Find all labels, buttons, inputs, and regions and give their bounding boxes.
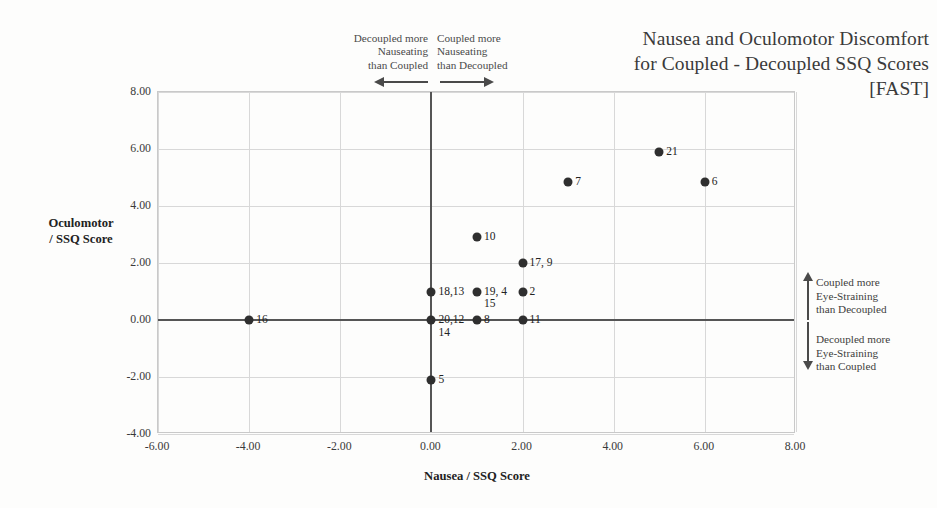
gridline-horizontal xyxy=(158,149,794,150)
data-point-label-line: 2 xyxy=(530,285,536,298)
gridline-horizontal xyxy=(158,206,794,207)
data-point-label: 2 xyxy=(530,285,536,298)
y-axis-title-line-2: / SSQ Score xyxy=(16,231,146,247)
data-point-label-line: 8 xyxy=(484,313,490,326)
data-point xyxy=(427,287,436,296)
data-point xyxy=(655,147,664,156)
annotation-right-bottom-line-3: than Coupled xyxy=(816,360,890,374)
x-axis-tick-label: -2.00 xyxy=(314,439,364,454)
chart-title-line-1: Nausea and Oculomotor Discomfort xyxy=(509,26,929,51)
data-point-label: 11 xyxy=(530,313,541,326)
gridline-horizontal xyxy=(158,434,794,435)
data-point xyxy=(473,316,482,325)
x-axis-tick-label: 6.00 xyxy=(679,439,729,454)
data-point xyxy=(518,259,527,268)
data-point-label-line: 7 xyxy=(575,175,581,188)
x-axis-tick-label: 4.00 xyxy=(588,439,638,454)
gridline-horizontal xyxy=(158,92,794,93)
data-point-label: 7 xyxy=(575,175,581,188)
data-point-label: 6 xyxy=(712,175,718,188)
annotation-right-bottom: Decoupled more Eye-Straining than Couple… xyxy=(816,333,890,374)
data-point-label-line: 5 xyxy=(438,373,444,386)
data-point-label-line: 18,13 xyxy=(438,285,464,298)
y-axis-tick-label: 2.00 xyxy=(105,255,151,270)
data-point-label: 8 xyxy=(484,313,490,326)
scatter-chart: Nausea and Oculomotor Discomfort for Cou… xyxy=(0,0,937,508)
annotation-top-right-line-3: than Decoupled xyxy=(437,59,547,72)
plot-area: 16520,121418,13819, 4151011217, 97216 xyxy=(157,91,795,433)
y-axis-tick-label: 6.00 xyxy=(105,141,151,156)
arrow-right-icon xyxy=(440,76,494,88)
annotation-top-right-line-1: Coupled more xyxy=(437,32,547,45)
x-axis-tick-label: 0.00 xyxy=(405,439,455,454)
data-point xyxy=(245,316,254,325)
x-axis-tick-label: 2.00 xyxy=(497,439,547,454)
data-point-label-line: 11 xyxy=(530,313,541,326)
data-point xyxy=(518,287,527,296)
gridline-vertical xyxy=(705,92,706,432)
gridline-horizontal xyxy=(158,377,794,378)
data-point-label-line: 14 xyxy=(438,326,464,339)
y-axis-tick-label: -2.00 xyxy=(105,369,151,384)
data-point-label-line: 6 xyxy=(712,175,718,188)
data-point-label: 19, 415 xyxy=(484,285,507,310)
arrow-down-icon xyxy=(802,322,815,370)
data-point-label: 21 xyxy=(666,145,678,158)
annotation-right-top-line-2: Eye-Straining xyxy=(816,290,887,304)
data-point-label-line: 15 xyxy=(484,297,507,310)
data-point-label: 18,13 xyxy=(438,285,464,298)
data-point-label: 5 xyxy=(438,373,444,386)
data-point-label-line: 19, 4 xyxy=(484,285,507,298)
y-axis-tick-label: 4.00 xyxy=(105,198,151,213)
y-axis-title-line-1: Oculomotor xyxy=(16,215,146,231)
annotation-top-right: Coupled more Nauseating than Decoupled xyxy=(437,32,547,72)
annotation-top-left: Decoupled more Nauseating than Coupled xyxy=(318,32,428,72)
data-point-label: 20,1214 xyxy=(438,313,464,338)
data-point xyxy=(564,177,573,186)
data-point-label: 17, 9 xyxy=(530,256,553,269)
y-axis-tick-label: 8.00 xyxy=(105,84,151,99)
chart-title: Nausea and Oculomotor Discomfort for Cou… xyxy=(509,26,929,101)
gridline-horizontal xyxy=(158,263,794,264)
annotation-right-bottom-line-2: Eye-Straining xyxy=(816,347,890,361)
x-axis-tick-label: -4.00 xyxy=(223,439,273,454)
annotation-right-bottom-line-1: Decoupled more xyxy=(816,333,890,347)
chart-title-line-2: for Coupled - Decoupled SSQ Scores xyxy=(509,51,929,76)
data-point xyxy=(427,316,436,325)
y-axis-tick-label: 0.00 xyxy=(105,312,151,327)
gridline-vertical xyxy=(158,92,159,432)
data-point xyxy=(427,375,436,384)
data-point xyxy=(518,316,527,325)
data-point xyxy=(473,233,482,242)
data-point-label-line: 16 xyxy=(256,313,268,326)
data-point-label: 10 xyxy=(484,230,496,243)
data-point-label-line: 21 xyxy=(666,145,678,158)
gridline-vertical xyxy=(249,92,250,432)
data-point-label-line: 17, 9 xyxy=(530,256,553,269)
annotation-right-top-line-3: than Decoupled xyxy=(816,303,887,317)
data-point-label-line: 20,12 xyxy=(438,313,464,326)
data-point-label-line: 10 xyxy=(484,230,496,243)
data-point xyxy=(700,177,709,186)
annotation-right-top: Coupled more Eye-Straining than Decouple… xyxy=(816,276,887,317)
annotation-top-left-line-2: Nauseating xyxy=(318,45,428,58)
arrow-up-icon xyxy=(802,272,815,320)
data-point xyxy=(473,287,482,296)
x-axis-tick-label: -6.00 xyxy=(132,439,182,454)
annotation-top-left-line-1: Decoupled more xyxy=(318,32,428,45)
gridline-vertical xyxy=(796,92,797,432)
annotation-top-left-line-3: than Coupled xyxy=(318,59,428,72)
gridline-vertical xyxy=(340,92,341,432)
arrow-left-icon xyxy=(374,76,428,88)
x-axis-tick-label: 8.00 xyxy=(770,439,820,454)
annotation-right-top-line-1: Coupled more xyxy=(816,276,887,290)
gridline-vertical xyxy=(614,92,615,432)
x-axis-title: Nausea / SSQ Score xyxy=(337,468,617,484)
y-axis-title: Oculomotor / SSQ Score xyxy=(16,215,146,247)
annotation-top-right-line-2: Nauseating xyxy=(437,45,547,58)
data-point-label: 16 xyxy=(256,313,268,326)
